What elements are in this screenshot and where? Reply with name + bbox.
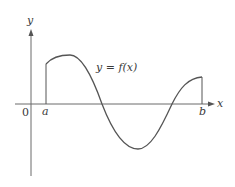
x-axis-arrow-icon: [208, 102, 215, 107]
function-graph: [0, 0, 235, 187]
interval-right-label: b: [199, 106, 206, 117]
interval-left-label: a: [42, 106, 49, 117]
y-axis-label: y: [27, 15, 33, 26]
origin-label: 0: [22, 107, 29, 118]
curve-label: y = f(x): [96, 62, 137, 73]
y-axis-arrow-icon: [29, 29, 34, 36]
x-axis-label: x: [217, 98, 223, 109]
